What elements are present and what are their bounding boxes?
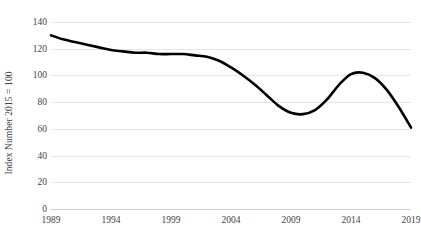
x-tick-label-2004: 2004 — [222, 215, 241, 225]
x-tick-label-2019: 2019 — [402, 215, 421, 225]
series-path-index — [51, 35, 411, 127]
x-axis-tick-labels: 1989199419992004200920142019 — [51, 211, 411, 237]
y-tick-label-100: 100 — [33, 70, 47, 80]
y-tick-label-140: 140 — [33, 17, 47, 27]
plot-area — [51, 22, 411, 209]
x-tick-label-2014: 2014 — [342, 215, 361, 225]
x-tick-label-1989: 1989 — [42, 215, 61, 225]
y-axis-tick-labels: 020406080100120140 — [18, 0, 51, 245]
y-tick-label-40: 40 — [38, 151, 48, 161]
y-tick-label-0: 0 — [42, 204, 47, 214]
series-line-index — [51, 22, 411, 209]
y-axis-title-label: Index Number 2015 = 100 — [4, 71, 14, 174]
y-tick-label-120: 120 — [33, 44, 47, 54]
y-tick-label-20: 20 — [38, 177, 48, 187]
x-tick-label-1994: 1994 — [102, 215, 121, 225]
y-axis-title: Index Number 2015 = 100 — [0, 0, 18, 245]
x-tick-label-2009: 2009 — [282, 215, 301, 225]
y-tick-label-80: 80 — [38, 97, 48, 107]
x-tick-label-1999: 1999 — [162, 215, 181, 225]
gridline-y-0 — [51, 209, 411, 210]
y-tick-label-60: 60 — [38, 124, 48, 134]
